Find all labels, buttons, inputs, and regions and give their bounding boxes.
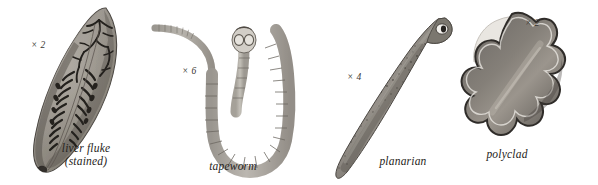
polyclad-caption: polyclad (454, 148, 560, 161)
specimen-polyclad: × 2 polyclad (452, 0, 598, 185)
planarian-magnification: × 4 (347, 72, 361, 82)
polyclad-magnification: × 2 (525, 18, 539, 28)
tapeworm-sucker-right (244, 35, 253, 46)
planarian-texture (338, 24, 437, 169)
polyclad-body (462, 13, 566, 135)
tapeworm-scolex (232, 27, 256, 113)
planarian-pupil (441, 26, 446, 33)
specimen-tapeworm: × 6 tapeworm (150, 0, 315, 185)
planarian-caption: planarian (351, 155, 455, 168)
tapeworm-sucker-left (234, 35, 243, 46)
specimen-liver-fluke: × 2 liver fluke (stained) (0, 0, 160, 185)
flatworm-specimen-plate: × 2 liver fluke (stained) (0, 0, 598, 185)
tapeworm-caption: tapeworm (178, 160, 288, 173)
liver-fluke-caption: liver fluke (stained) (28, 142, 144, 168)
tapeworm-magnification: × 6 (182, 66, 196, 76)
tapeworm-illustration (150, 0, 315, 185)
liver-fluke-magnification: × 2 (31, 40, 45, 50)
